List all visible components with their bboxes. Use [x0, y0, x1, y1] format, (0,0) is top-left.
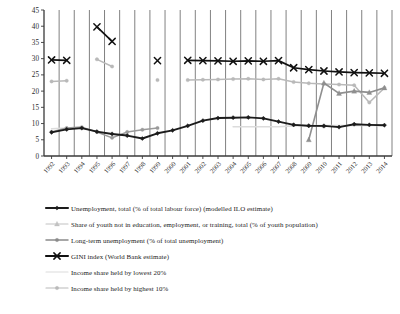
svg-text:2006: 2006 [254, 159, 268, 174]
svg-text:10: 10 [32, 120, 40, 128]
series-5 [50, 58, 386, 105]
svg-text:2001: 2001 [178, 160, 192, 174]
svg-text:2013: 2013 [360, 159, 374, 174]
legend-marker-circle-icon [44, 282, 70, 294]
legend-item-label: Income share held by lowest 20% [71, 269, 166, 276]
data-series-layer [48, 24, 387, 142]
svg-text:2011: 2011 [329, 160, 343, 174]
legend-marker-diamond-icon [44, 202, 70, 214]
svg-text:1992: 1992 [42, 160, 56, 174]
legend-item-label: Income share held by highest 10% [71, 285, 168, 292]
svg-text:2014: 2014 [375, 159, 389, 174]
legend-item[interactable]: Unemployment, total (% of total labour f… [44, 200, 396, 216]
legend-marker-none-icon [44, 266, 70, 278]
svg-text:1994: 1994 [72, 159, 86, 174]
svg-text:2012: 2012 [344, 160, 358, 174]
svg-text:30: 30 [32, 55, 40, 63]
chart-container: 051015202530354045 199219931994199519961… [0, 0, 400, 314]
svg-text:35: 35 [32, 39, 40, 47]
svg-text:15: 15 [32, 104, 40, 112]
legend-item[interactable]: GINI index (World Bank estimate) [44, 248, 396, 264]
legend-item[interactable]: Share of youth not in education, employm… [44, 216, 396, 232]
svg-text:40: 40 [32, 23, 40, 31]
chart-legend: Unemployment, total (% of total labour f… [44, 200, 396, 296]
legend-item[interactable]: Long-term unemployment (% of total unemp… [44, 232, 396, 248]
svg-text:0: 0 [35, 153, 39, 161]
legend-item[interactable]: Income share held by lowest 20% [44, 264, 396, 280]
legend-item-label: Share of youth not in education, employm… [71, 221, 318, 228]
svg-text:2007: 2007 [269, 159, 283, 174]
svg-text:1998: 1998 [133, 159, 147, 174]
svg-text:2005: 2005 [238, 159, 252, 174]
svg-text:25: 25 [32, 71, 40, 79]
svg-text:5: 5 [35, 136, 39, 144]
chart-plot-area: 051015202530354045 199219931994199519961… [0, 0, 400, 200]
x-axis-tick-labels: 1992199319941995199619971998199920002001… [42, 156, 389, 174]
legend-marker-circle-icon [44, 234, 70, 246]
svg-text:2003: 2003 [208, 159, 222, 174]
y-axis-tick-labels: 051015202530354045 [32, 7, 44, 161]
legend-item[interactable]: Income share held by highest 10% [44, 280, 396, 296]
svg-text:1997: 1997 [117, 159, 131, 174]
legend-item-label: Unemployment, total (% of total labour f… [71, 205, 273, 212]
series-0 [49, 115, 386, 140]
svg-text:2002: 2002 [193, 160, 207, 174]
legend-item-label: Long-term unemployment (% of total unemp… [71, 237, 223, 244]
legend-marker-triangle-icon [44, 218, 70, 230]
svg-text:2010: 2010 [314, 159, 328, 174]
svg-text:1995: 1995 [87, 159, 101, 174]
svg-text:2009: 2009 [299, 159, 313, 174]
svg-text:20: 20 [32, 88, 40, 96]
series-3 [48, 24, 387, 77]
svg-text:2004: 2004 [223, 159, 237, 174]
legend-marker-cross-icon [44, 250, 70, 262]
svg-text:1993: 1993 [57, 159, 71, 174]
svg-text:2000: 2000 [163, 159, 177, 174]
svg-text:1996: 1996 [102, 159, 116, 174]
svg-text:1999: 1999 [148, 159, 162, 174]
svg-text:2008: 2008 [284, 159, 298, 174]
legend-item-label: GINI index (World Bank estimate) [71, 253, 169, 260]
svg-text:45: 45 [32, 7, 40, 15]
